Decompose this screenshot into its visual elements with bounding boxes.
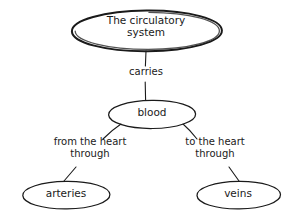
connector-blood-arteries-upper [103,124,121,139]
connector-blood-veins-lower [229,167,239,181]
connector-blood-veins-upper [183,124,197,139]
connector-blood-arteries-lower [64,167,76,181]
diagram-canvas: The circulatory system blood arteries ve… [0,0,292,219]
node-shape-arteries[interactable] [23,181,110,209]
node-shape-blood[interactable] [109,100,196,128]
node-shape-root[interactable] [72,11,222,52]
node-shape-veins[interactable] [197,181,281,209]
connector-root-blood-upper [145,51,146,66]
diagram-graphics [0,0,292,219]
